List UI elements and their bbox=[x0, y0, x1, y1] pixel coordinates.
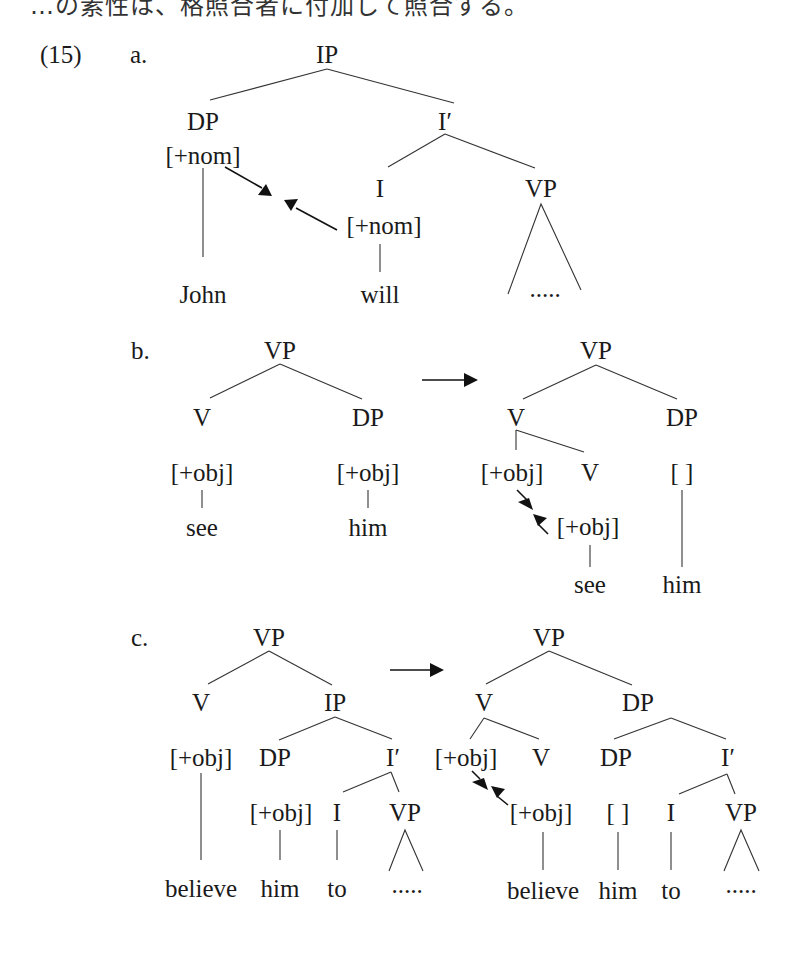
b-after-see: see bbox=[574, 572, 606, 597]
c-before-i-bar: I′ bbox=[386, 745, 400, 770]
node-vp: VP bbox=[525, 176, 557, 201]
c-after-vp: VP bbox=[533, 625, 565, 650]
b-after-him: him bbox=[663, 572, 702, 597]
b-before-v-feature: [+obj] bbox=[171, 460, 234, 485]
b-after-dp-feature-empty: [ ] bbox=[671, 460, 694, 485]
c-after-dp-feature-empty: [ ] bbox=[607, 800, 630, 825]
c-after-him: him bbox=[599, 878, 638, 903]
c-before-v-feature: [+obj] bbox=[170, 745, 233, 770]
b-before-dp-feature: [+obj] bbox=[337, 460, 400, 485]
arrow-head-up-icon bbox=[491, 786, 505, 798]
arrow-head-down-icon bbox=[472, 778, 488, 790]
node-i-bar: I′ bbox=[438, 109, 452, 134]
c-after-to: to bbox=[661, 878, 680, 903]
b-after-dp: DP bbox=[666, 405, 698, 430]
c-before-believe: believe bbox=[165, 876, 237, 901]
node-i-feature: [+nom] bbox=[346, 213, 421, 238]
c-after-v: V bbox=[475, 690, 493, 715]
c-before-to: to bbox=[327, 876, 346, 901]
syntax-tree-figure: …の素性は、格照合者に付加して照合する。 bbox=[0, 0, 801, 960]
b-before-dp: DP bbox=[352, 405, 384, 430]
b-after-v-inner: V bbox=[581, 460, 599, 485]
b-after-v: V bbox=[507, 405, 525, 430]
c-before-vp-low: VP bbox=[389, 800, 421, 825]
c-after-dp: DP bbox=[600, 745, 632, 770]
c-before-vp: VP bbox=[253, 625, 285, 650]
b-after-v-feature: [+obj] bbox=[481, 460, 544, 485]
c-before-dp-feature: [+obj] bbox=[250, 800, 313, 825]
transform-arrow-head-icon bbox=[464, 373, 478, 387]
c-after-i-bar: I′ bbox=[721, 745, 735, 770]
b-after-vp: VP bbox=[580, 338, 612, 363]
leaf-john: John bbox=[179, 282, 226, 307]
node-dp-feature: [+nom] bbox=[165, 143, 240, 168]
b-before-him: him bbox=[349, 515, 388, 540]
tree-b-label: b. bbox=[131, 338, 150, 363]
c-before-dots: ..... bbox=[391, 872, 422, 897]
arrow-head-down-icon bbox=[284, 199, 298, 211]
b-before-see: see bbox=[186, 515, 218, 540]
c-after-believe: believe bbox=[507, 878, 579, 903]
b-after-verb-feature: [+obj] bbox=[557, 514, 620, 539]
c-after-v-inner: V bbox=[532, 745, 550, 770]
transform-arrow-head-icon bbox=[430, 663, 444, 677]
arrow-head-up-icon bbox=[258, 184, 272, 196]
example-number: (15) bbox=[40, 42, 82, 67]
b-before-vp: VP bbox=[264, 338, 296, 363]
leaf-vp-dots: ..... bbox=[529, 276, 560, 301]
tree-a-label: a. bbox=[130, 42, 147, 67]
arrow-head-down-icon bbox=[518, 498, 533, 510]
c-before-dp: DP bbox=[259, 745, 291, 770]
arrow-head-up-icon bbox=[533, 514, 547, 526]
node-dp: DP bbox=[187, 109, 219, 134]
c-before-him: him bbox=[261, 876, 300, 901]
c-after-verb-feature: [+obj] bbox=[510, 800, 573, 825]
c-after-i: I bbox=[667, 800, 675, 825]
leaf-will: will bbox=[361, 282, 400, 307]
c-after-dots: ..... bbox=[725, 872, 756, 897]
node-i: I bbox=[376, 176, 384, 201]
b-before-v: V bbox=[193, 405, 211, 430]
c-after-v-feature: [+obj] bbox=[435, 745, 498, 770]
c-after-vp-low: VP bbox=[725, 800, 757, 825]
node-ip: IP bbox=[316, 42, 338, 67]
c-after-dp-top: DP bbox=[622, 690, 654, 715]
tree-c-label: c. bbox=[131, 625, 148, 650]
c-before-i: I bbox=[333, 800, 341, 825]
c-before-ip: IP bbox=[324, 690, 346, 715]
c-before-v: V bbox=[192, 690, 210, 715]
